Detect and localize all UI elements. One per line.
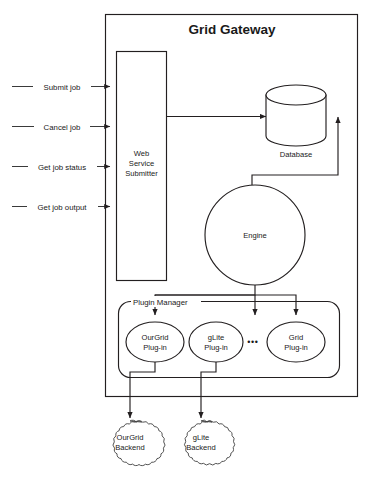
plugin-label: OurGrid	[141, 333, 168, 342]
web-service-submitter-label: Service	[129, 159, 154, 168]
backend-glite-node: gLite Backend	[185, 420, 235, 465]
backend-ourgrid-node: OurGrid Backend	[113, 420, 165, 465]
input-flow-label: Cancel job	[44, 123, 82, 132]
backend-label: OurGrid	[116, 433, 143, 442]
page-title: Grid Gateway	[188, 22, 276, 37]
plugin-label: Plug-in	[143, 343, 167, 352]
plugin-label: Plug-in	[284, 343, 308, 352]
backend-label: Backend	[186, 443, 216, 452]
backend-label: Backend	[115, 443, 145, 452]
plugin-label: Plug-in	[204, 343, 228, 352]
database-label: Database	[280, 150, 313, 159]
engine-node: Engine	[205, 185, 305, 285]
input-flow-label: Submit job	[44, 83, 82, 92]
engine-label: Engine	[243, 231, 267, 240]
input-flow-label: Get job output	[38, 203, 88, 212]
plugin-glite-node: gLite Plug-in	[189, 322, 243, 362]
plugin-label: gLite	[208, 333, 224, 342]
web-service-submitter-label: Web	[134, 149, 149, 158]
plugin-manager-label: Plugin Manager	[133, 298, 188, 307]
plugin-ourgrid-node: OurGrid Plug-in	[126, 322, 184, 362]
input-flow-label: Get job status	[38, 163, 86, 172]
input-flow-submit-job: Submit job	[12, 80, 110, 93]
input-flows: Submit job Cancel job Get job status Get…	[12, 80, 110, 213]
input-flow-get-job-output: Get job output	[12, 200, 110, 213]
input-flow-cancel-job: Cancel job	[12, 120, 110, 133]
backend-label: gLite	[193, 433, 209, 442]
plugin-grid-node: Grid Plug-in	[267, 322, 325, 362]
web-service-submitter-label: Submitter	[125, 169, 158, 178]
plugin-label: Grid	[289, 333, 303, 342]
plugin-ellipsis: •••	[247, 337, 258, 347]
grid-gateway-architecture-diagram: Grid Gateway Submit job Cancel job Get j…	[0, 0, 371, 493]
input-flow-get-job-status: Get job status	[12, 160, 110, 173]
web-service-submitter-node: Web Service Submitter	[117, 52, 167, 281]
